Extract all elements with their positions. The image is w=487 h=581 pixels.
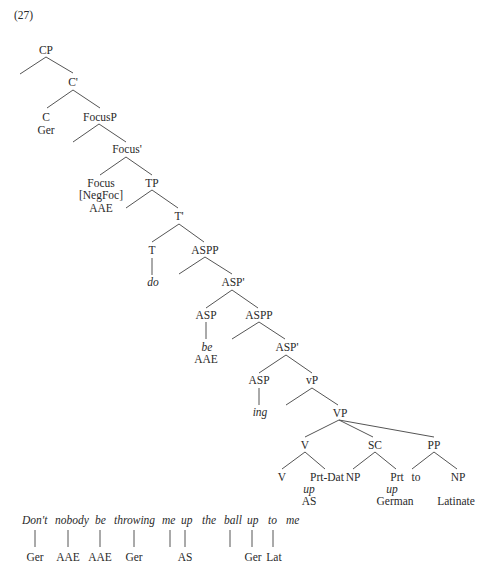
word: up bbox=[247, 514, 259, 527]
node-t: T bbox=[148, 244, 155, 256]
gloss-lines bbox=[35, 530, 273, 547]
node-tp: TP bbox=[145, 177, 158, 189]
word: me bbox=[162, 514, 175, 526]
node-asp-1-lang: AAE bbox=[194, 353, 218, 365]
branch-line bbox=[412, 452, 434, 469]
gloss: AAE bbox=[88, 551, 112, 563]
node-c: C bbox=[42, 111, 50, 123]
word: throwing bbox=[114, 514, 155, 527]
gloss: Lat bbox=[266, 551, 282, 563]
branch-line bbox=[286, 355, 312, 373]
node-sc-prt-lang: German bbox=[376, 495, 413, 507]
word: the bbox=[202, 514, 216, 526]
branch-line bbox=[375, 452, 396, 469]
branch-line bbox=[434, 452, 457, 469]
node-sc-np: NP bbox=[346, 471, 361, 483]
word: ball bbox=[224, 514, 242, 526]
branch-line bbox=[152, 224, 179, 242]
gloss: Ger bbox=[125, 551, 142, 563]
syntax-tree-diagram: (27) CP C' C Ger FocusP Focus' Focus [Ne… bbox=[0, 0, 487, 581]
word: to bbox=[268, 514, 277, 526]
gloss: AS bbox=[178, 551, 193, 563]
word: up bbox=[181, 514, 193, 527]
word: me bbox=[286, 514, 299, 526]
node-t-word: do bbox=[147, 276, 159, 288]
node-vp: VP bbox=[333, 407, 348, 419]
branch-line bbox=[99, 124, 126, 142]
branch-line bbox=[126, 157, 152, 175]
node-c-lang: Ger bbox=[37, 124, 54, 136]
branch-line bbox=[286, 388, 312, 405]
node-focus-lang: AAE bbox=[89, 202, 113, 214]
node-asp-2: ASP bbox=[248, 374, 269, 386]
branch-line bbox=[305, 420, 339, 437]
node-prt-dat: Prt-Dat bbox=[310, 471, 345, 483]
branch-line bbox=[339, 420, 434, 437]
branch-line bbox=[46, 57, 73, 73]
node-focus-bar: Focus' bbox=[112, 143, 142, 155]
branch-line bbox=[282, 452, 305, 469]
branch-line bbox=[73, 90, 100, 108]
gloss: AAE bbox=[56, 551, 80, 563]
branch-line bbox=[259, 355, 286, 373]
gloss-row: Ger AAE AAE Ger AS Ger Lat bbox=[26, 551, 282, 563]
node-asp-bar-1: ASP' bbox=[221, 276, 244, 288]
word: nobody bbox=[55, 514, 90, 527]
node-cp: CP bbox=[39, 44, 53, 56]
node-aspp-1: ASPP bbox=[191, 244, 219, 256]
node-asp-1-word: be bbox=[202, 341, 213, 353]
branch-line bbox=[353, 452, 375, 469]
node-pp-lang: Latinate bbox=[437, 495, 475, 507]
node-prt-dat-lang: AS bbox=[302, 495, 317, 507]
branch-line bbox=[232, 322, 259, 339]
node-focus-feature: [NegFoc] bbox=[79, 189, 123, 202]
node-t-bar: T' bbox=[174, 210, 183, 222]
branch-line bbox=[73, 124, 99, 142]
branch-line bbox=[100, 157, 126, 175]
node-sc: SC bbox=[368, 439, 382, 451]
node-pp-np: NP bbox=[451, 471, 466, 483]
node-aspp-2: ASPP bbox=[245, 309, 273, 321]
node-pp: PP bbox=[428, 439, 441, 451]
branch-line bbox=[232, 290, 258, 308]
node-sc-prt: Prt bbox=[390, 471, 404, 483]
branch-line bbox=[126, 190, 152, 208]
node-focus: Focus bbox=[87, 177, 115, 189]
word: be bbox=[95, 514, 106, 526]
branch-line bbox=[47, 90, 73, 108]
branch-line bbox=[179, 224, 204, 242]
node-asp-1: ASP bbox=[195, 309, 216, 321]
branch-line bbox=[205, 257, 232, 274]
node-v-inner: V bbox=[278, 471, 287, 483]
branch-line bbox=[259, 322, 285, 339]
gloss: Ger bbox=[26, 551, 43, 563]
sentence-row: Don't nobody be throwing me up the ball … bbox=[21, 514, 299, 527]
example-number: (27) bbox=[14, 9, 33, 22]
node-c-bar: C' bbox=[68, 76, 78, 88]
branch-line bbox=[312, 388, 338, 405]
node-little-vp: vP bbox=[306, 374, 318, 386]
node-v: V bbox=[301, 439, 310, 451]
branch-line bbox=[305, 452, 325, 469]
branch-line bbox=[206, 290, 232, 308]
gloss: Ger bbox=[244, 551, 261, 563]
branch-line bbox=[152, 190, 178, 208]
node-pp-to: to bbox=[412, 471, 421, 483]
node-asp-bar-2: ASP' bbox=[275, 341, 298, 353]
node-asp-2-word: ing bbox=[253, 406, 268, 419]
branch-line bbox=[179, 257, 205, 274]
branch-line bbox=[20, 57, 46, 74]
word: Don't bbox=[21, 514, 48, 526]
node-focusp: FocusP bbox=[83, 111, 117, 123]
